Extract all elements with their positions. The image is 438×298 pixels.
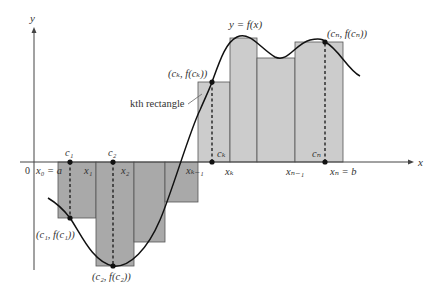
x-axis-label: x (417, 156, 423, 168)
rectangle-2 (96, 162, 134, 266)
p1-dot (67, 215, 72, 220)
x2-label: x₂ (120, 165, 130, 176)
p2-dot (110, 263, 115, 268)
riemann-sum-figure: y x 0 y = f(x) kth rectangle c₁ c₂ cₖ cₙ… (0, 0, 438, 298)
cn-label: cₙ (312, 148, 321, 159)
pk-label: (cₖ, f(cₖ)) (168, 68, 208, 80)
cn-axis-dot (322, 159, 327, 164)
ck-label: cₖ (217, 148, 226, 159)
kth-rectangle-label: kth rectangle (130, 98, 185, 109)
positive-rectangles (198, 38, 343, 162)
c2-label: c₂ (108, 147, 117, 158)
pn-label: (cₙ, f(cₙ)) (327, 28, 367, 40)
xn-1-label: xₙ₋₁ (285, 166, 304, 177)
origin-label: 0 (25, 165, 30, 176)
rectangle-n-minus-1 (257, 58, 295, 162)
x-axis-arrow-icon (408, 160, 414, 165)
c1-axis-dot (67, 159, 72, 164)
pn-dot (322, 39, 327, 44)
pk-dot (209, 79, 214, 84)
p1-label: (c₁, f(c₁)) (36, 229, 75, 241)
xn-label: xₙ = b (329, 166, 357, 177)
c1-label: c₁ (65, 147, 73, 158)
ck-axis-dot (209, 159, 214, 164)
c2-axis-dot (110, 159, 115, 164)
y-axis-label: y (29, 12, 35, 24)
p2-label: (c₂, f(c₂)) (92, 271, 131, 283)
y-axis-arrow-icon (32, 27, 37, 33)
negative-rectangles (58, 162, 198, 266)
x0-label: x₀ = a (35, 165, 62, 176)
rectangle-3 (134, 162, 165, 242)
rectangle-n (295, 42, 343, 162)
x1-label: x₁ (83, 165, 92, 176)
rectangle-k-plus-1 (230, 38, 257, 162)
xk-1-label: xₖ₋₁ (185, 165, 204, 176)
xk-label: xₖ (224, 166, 234, 177)
curve-label: y = f(x) (228, 18, 262, 31)
